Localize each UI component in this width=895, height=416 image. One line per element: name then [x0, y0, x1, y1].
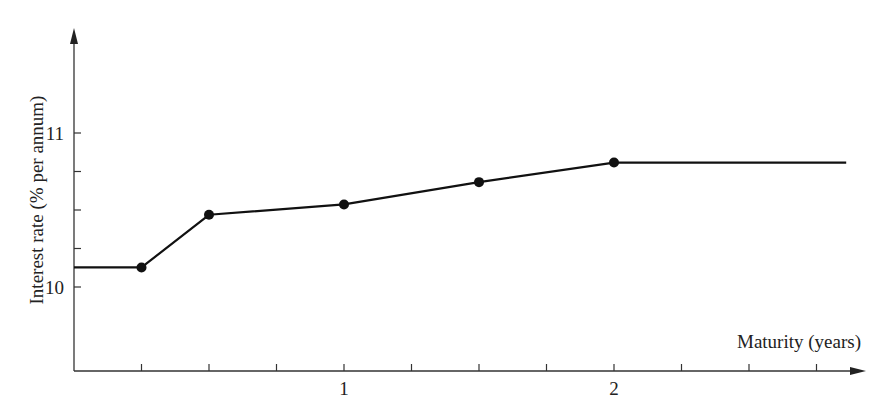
data-point-marker: [474, 177, 484, 187]
data-point-marker: [204, 210, 214, 220]
x-tick-label: 1: [339, 378, 349, 399]
y-tick-label: 11: [46, 123, 64, 144]
axes: [70, 28, 866, 375]
y-axis-arrow-icon: [70, 28, 78, 44]
interest-rate-chart: 121011: [0, 0, 895, 416]
x-axis-label: Maturity (years): [737, 331, 861, 353]
series-line: [74, 158, 846, 273]
tick-labels: 121011: [45, 123, 619, 399]
data-point-marker: [137, 262, 147, 272]
zero-curve-line: [74, 163, 846, 268]
y-axis-label: Interest rate (% per annum): [26, 96, 48, 305]
axis-ticks: [74, 133, 817, 371]
data-point-marker: [609, 158, 619, 168]
data-point-marker: [339, 199, 349, 209]
x-axis-arrow-icon: [850, 367, 866, 375]
x-tick-label: 2: [609, 378, 619, 399]
